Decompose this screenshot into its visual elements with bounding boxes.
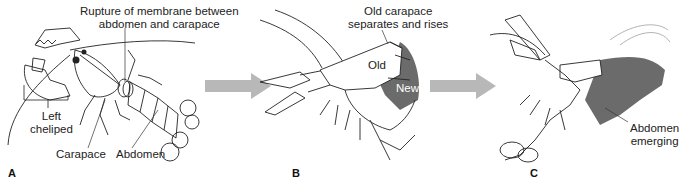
panel-c: Abdomen emerging C (490, 0, 673, 184)
label-abdomen-emerging: Abdomen emerging (630, 122, 679, 148)
label-carapace: Carapace (56, 148, 106, 161)
panel-letter-a: A (8, 167, 16, 179)
right-arrow-icon (430, 72, 498, 100)
label-old-carapace-line1: Old carapace (348, 5, 448, 18)
label-rupture-line2: abdomen and carapace (80, 18, 239, 31)
label-new: New (396, 82, 419, 94)
panel-letter-c: C (530, 167, 538, 179)
label-rupture: Rupture of membrane between abdomen and … (80, 5, 239, 31)
label-old-carapace-line2: separates and rises (348, 18, 448, 31)
label-old-carapace: Old carapace separates and rises (348, 5, 448, 31)
panel-b: Old carapace separates and rises Old New… (250, 0, 440, 184)
lobster-abdomen-emerging-illustration (490, 0, 673, 184)
label-cheliped-line2: cheliped (30, 123, 73, 136)
panel-letter-b: B (292, 167, 300, 179)
label-old: Old (368, 59, 386, 71)
label-rupture-line1: Rupture of membrane between (80, 5, 239, 18)
label-abdomen-emerging-line2: emerging (630, 135, 679, 148)
label-cheliped-line1: Left (30, 110, 73, 123)
label-abdomen: Abdomen (116, 148, 165, 161)
panel-a: Rupture of membrane between abdomen and … (0, 0, 210, 184)
label-abdomen-emerging-line1: Abdomen (630, 122, 679, 135)
label-left-cheliped: Left cheliped (30, 110, 73, 136)
